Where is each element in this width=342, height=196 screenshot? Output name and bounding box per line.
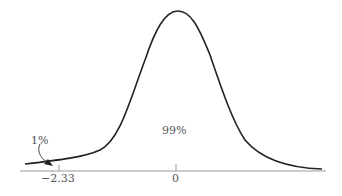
center-area-label: 99% bbox=[162, 124, 186, 137]
bell-curve bbox=[25, 11, 322, 169]
normal-curve-diagram bbox=[0, 0, 342, 196]
tick-label-left: −2.33 bbox=[41, 172, 75, 185]
left-tail-label: 1% bbox=[31, 134, 48, 147]
tick-label-center: 0 bbox=[172, 172, 179, 185]
